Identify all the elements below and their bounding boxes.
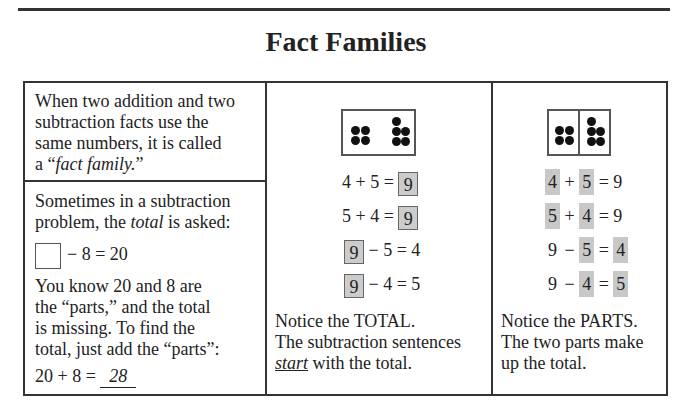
- eq-right: − 5 = 4: [364, 240, 420, 260]
- example-line: problem, the total is asked:: [35, 212, 231, 233]
- example-line: Sometimes in a subtraction: [35, 191, 231, 212]
- operator: =: [599, 172, 609, 192]
- definition-line: a “fact family.”: [35, 154, 235, 175]
- dot-icon: [587, 117, 596, 126]
- part-highlight: 4: [613, 237, 628, 263]
- parts-note: Notice the PARTS. The two parts make up …: [501, 311, 643, 374]
- dot-icon: [361, 136, 370, 145]
- total-box: 9: [344, 274, 364, 298]
- total-box: 9: [344, 240, 364, 264]
- definition-line: same numbers, it is called: [35, 133, 235, 154]
- empty-answer-box[interactable]: [35, 243, 61, 269]
- operator: +: [565, 206, 575, 226]
- answer-equation: 20 + 8 = 28: [35, 366, 136, 388]
- equation-row: 9 − 4 = 5: [344, 271, 420, 297]
- operator: =: [599, 240, 609, 260]
- page-title: Fact Families: [0, 26, 692, 58]
- value: 9: [613, 206, 622, 226]
- value: 9: [613, 172, 622, 192]
- text: with the total.: [308, 353, 412, 373]
- dot-icon: [351, 126, 360, 135]
- equation-row: 9 − 4 = 5: [545, 271, 628, 297]
- operator: +: [565, 172, 575, 192]
- note-line: start with the total.: [275, 353, 461, 374]
- definition-line: subtraction facts use the: [35, 112, 235, 133]
- operator: −: [565, 274, 575, 294]
- equation-row: 9 − 5 = 4: [344, 237, 420, 263]
- dot-icon: [596, 127, 605, 136]
- total-box: 9: [398, 172, 418, 196]
- explain-line: the “parts,” and the total: [35, 297, 219, 318]
- domino-divider: [578, 111, 580, 154]
- note-line: The two parts make: [501, 332, 643, 353]
- explain-line: You know 20 and 8 are: [35, 276, 219, 297]
- dot-icon: [555, 136, 564, 145]
- explain-line: total, just add the “parts”:: [35, 339, 219, 360]
- note-line: Notice the TOTAL.: [275, 311, 461, 332]
- equation-rest: − 8 = 20: [67, 244, 128, 264]
- total-note: Notice the TOTAL. The subtraction senten…: [275, 311, 461, 374]
- dot-icon: [555, 126, 564, 135]
- part-highlight: 5: [579, 169, 594, 195]
- missing-total-equation: − 8 = 20: [35, 240, 128, 269]
- eq-right: − 4 = 5: [364, 274, 420, 294]
- text: problem, the: [35, 212, 130, 232]
- operator: =: [599, 274, 609, 294]
- dot-icon: [565, 126, 574, 135]
- definition-line: When two addition and two: [35, 91, 235, 112]
- top-rule: [18, 8, 670, 11]
- dot-icon: [587, 127, 596, 136]
- part-highlight: 5: [579, 237, 594, 263]
- part-highlight: 5: [545, 203, 560, 229]
- definition-text: When two addition and two subtraction fa…: [35, 91, 235, 175]
- dot-icon: [565, 136, 574, 145]
- domino-total-icon: [341, 109, 416, 156]
- fact-family-table: When two addition and two subtraction fa…: [23, 81, 668, 396]
- equation-row: 4 + 5 = 9: [342, 169, 418, 195]
- part-highlight: 5: [613, 271, 628, 297]
- explain-line: is missing. To find the: [35, 318, 219, 339]
- part-highlight: 4: [579, 203, 594, 229]
- equation-row: 4 + 5 = 9: [545, 169, 622, 195]
- eq-left: 5 + 4 =: [342, 206, 398, 226]
- dot-icon: [587, 137, 596, 146]
- value: 9: [545, 274, 560, 294]
- domino-parts-icon: [547, 109, 611, 156]
- part-highlight: 4: [579, 271, 594, 297]
- example-explanation: You know 20 and 8 are the “parts,” and t…: [35, 276, 219, 360]
- eq-left: 4 + 5 =: [342, 172, 398, 192]
- column-divider-2: [491, 83, 493, 394]
- dot-icon: [392, 127, 401, 136]
- note-line: Notice the PARTS.: [501, 311, 643, 332]
- part-highlight: 4: [545, 169, 560, 195]
- dot-icon: [351, 136, 360, 145]
- column-divider-1: [265, 83, 267, 394]
- row-divider-left: [25, 180, 266, 182]
- answer-value: 28: [100, 366, 136, 388]
- equation-row: 9 − 5 = 4: [545, 237, 628, 263]
- value: 9: [545, 240, 560, 260]
- note-line: up the total.: [501, 353, 643, 374]
- note-line: The subtraction sentences: [275, 332, 461, 353]
- dot-icon: [401, 127, 410, 136]
- dot-icon: [361, 126, 370, 135]
- answer-prefix: 20 + 8 =: [35, 366, 100, 386]
- equation-row: 5 + 4 = 9: [342, 203, 418, 229]
- start-term: start: [275, 353, 308, 373]
- operator: =: [599, 206, 609, 226]
- dot-icon: [596, 137, 605, 146]
- fact-family-term: fact family.: [55, 154, 135, 174]
- operator: −: [565, 240, 575, 260]
- example-intro: Sometimes in a subtraction problem, the …: [35, 191, 231, 233]
- quote-open: a “: [35, 154, 55, 174]
- text: is asked:: [164, 212, 231, 232]
- equation-row: 5 + 4 = 9: [545, 203, 622, 229]
- total-box: 9: [398, 206, 418, 230]
- total-term: total: [130, 212, 163, 232]
- quote-close: ”: [135, 154, 143, 174]
- dot-icon: [392, 137, 401, 146]
- dot-icon: [401, 137, 410, 146]
- dot-icon: [392, 117, 401, 126]
